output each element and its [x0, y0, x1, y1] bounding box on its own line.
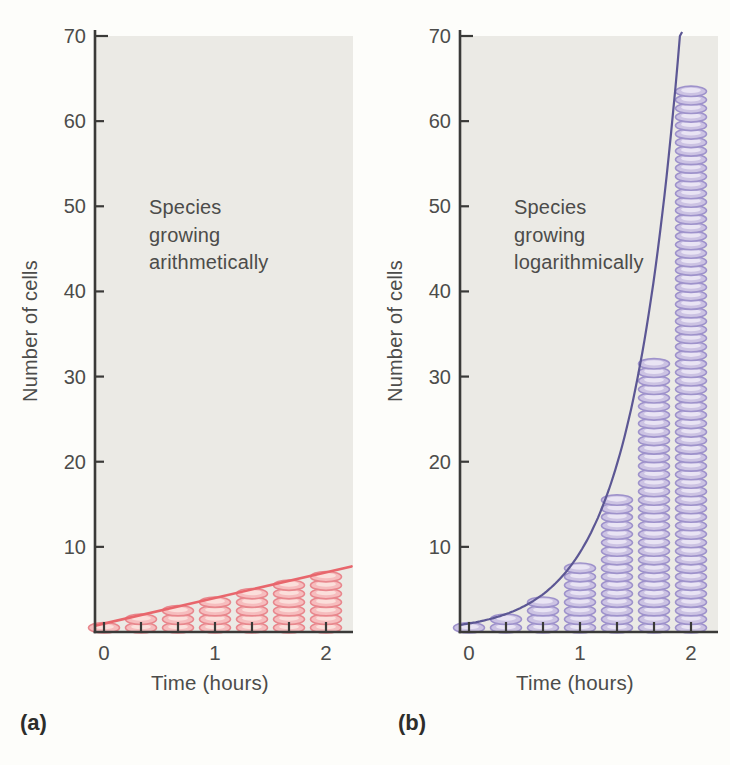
y-axis-label: Number of cells	[384, 231, 406, 431]
y-tick-label: 70	[429, 25, 451, 47]
x-tick-label: 1	[209, 641, 220, 664]
annotation-line: arithmetically	[149, 249, 269, 277]
cell-highlight	[681, 88, 701, 93]
y-tick-label: 20	[64, 451, 86, 473]
annotation-arithmetic: Species growing arithmetically	[149, 194, 269, 277]
y-axis-label: Number of cells	[19, 231, 41, 431]
growth-comparison-figure: 10203040506070012 Species growing arithm…	[0, 0, 730, 765]
chart-logarithmic-growth: 10203040506070012	[365, 0, 730, 765]
y-tick-label: 60	[429, 110, 451, 132]
panel-a-caption: (a)	[20, 710, 47, 736]
x-tick-label: 0	[463, 641, 474, 664]
y-tick-label: 30	[64, 366, 86, 388]
annotation-line: logarithmically	[514, 249, 644, 277]
annotation-line: growing	[514, 222, 644, 250]
x-axis-label: Time (hours)	[475, 671, 675, 695]
y-tick-label: 50	[64, 195, 86, 217]
x-tick-label: 1	[574, 641, 585, 664]
x-tick-label: 2	[320, 641, 331, 664]
chart-arithmetic-growth: 10203040506070012	[0, 0, 365, 765]
annotation-line: Species	[149, 194, 269, 222]
y-tick-label: 70	[64, 25, 86, 47]
annotation-line: growing	[149, 222, 269, 250]
cell-highlight	[570, 565, 590, 570]
cell-highlight	[644, 360, 664, 365]
x-tick-label: 0	[98, 641, 109, 664]
y-tick-label: 30	[429, 366, 451, 388]
panel-arithmetic-growth: 10203040506070012 Species growing arithm…	[0, 0, 365, 765]
y-tick-label: 60	[64, 110, 86, 132]
y-tick-label: 50	[429, 195, 451, 217]
panel-b-caption: (b)	[398, 710, 426, 736]
y-tick-label: 40	[429, 280, 451, 302]
y-tick-label: 10	[64, 536, 86, 558]
cell-stack	[639, 359, 670, 633]
cell-highlight	[607, 496, 627, 501]
x-tick-label: 2	[685, 641, 696, 664]
panel-logarithmic-growth: 10203040506070012 Species growing logari…	[365, 0, 730, 765]
x-axis-label: Time (hours)	[110, 671, 310, 695]
y-tick-label: 40	[64, 280, 86, 302]
annotation-line: Species	[514, 194, 644, 222]
cell-stack	[601, 495, 632, 633]
y-tick-label: 10	[429, 536, 451, 558]
y-tick-label: 20	[429, 451, 451, 473]
plot-background	[95, 36, 353, 632]
annotation-logarithmic: Species growing logarithmically	[514, 194, 644, 277]
cell-stack	[676, 86, 707, 633]
